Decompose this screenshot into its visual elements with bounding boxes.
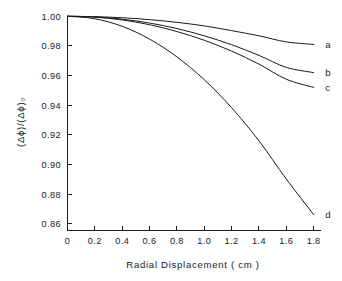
curve-label-c: c — [325, 82, 330, 93]
x-axis-tick-labels: 00.20.40.60.81.01.21.41.61.8 — [65, 236, 321, 246]
curve-label-a: a — [325, 39, 331, 50]
x-tick-label: 1.0 — [197, 236, 211, 246]
curve-label-b: b — [325, 67, 330, 78]
x-tick-label: 0.4 — [115, 236, 129, 246]
y-tick-label: 1.00 — [42, 12, 61, 22]
x-tick-label: 1.4 — [252, 236, 266, 246]
curve-end-labels: abcd — [325, 39, 331, 220]
curve-b — [68, 16, 314, 72]
y-tick-label: 0.88 — [42, 190, 61, 200]
axis-tick-marks — [68, 16, 314, 230]
y-tick-label: 0.94 — [42, 101, 61, 111]
axis-lines — [68, 16, 321, 231]
x-tick-label: 1.2 — [225, 236, 239, 246]
y-tick-label: 0.90 — [42, 160, 61, 170]
curve-c — [68, 16, 314, 87]
x-tick-label: 1.6 — [279, 236, 293, 246]
x-axis-title: Radial Displacement ( cm ) — [126, 259, 259, 270]
x-tick-label: 0.2 — [88, 236, 102, 246]
x-tick-label: 1.8 — [307, 236, 321, 246]
line-chart-plot: 0.860.880.900.920.940.960.981.00 00.20.4… — [0, 0, 342, 281]
y-tick-label: 0.86 — [42, 219, 61, 229]
curve-label-d: d — [325, 209, 330, 220]
data-curves — [68, 16, 314, 214]
chart-figure: 0.860.880.900.920.940.960.981.00 00.20.4… — [0, 0, 342, 281]
curve-d — [68, 16, 314, 214]
y-tick-label: 0.98 — [42, 41, 61, 51]
y-axis-title: (Δϕ)/(Δϕ)₀ — [15, 97, 26, 147]
y-axis-tick-labels: 0.860.880.900.920.940.960.981.00 — [42, 12, 61, 230]
y-tick-label: 0.92 — [42, 130, 61, 140]
x-tick-label: 0 — [65, 236, 71, 246]
x-tick-label: 0.6 — [143, 236, 157, 246]
y-tick-label: 0.96 — [42, 71, 61, 81]
x-tick-label: 0.8 — [170, 236, 184, 246]
